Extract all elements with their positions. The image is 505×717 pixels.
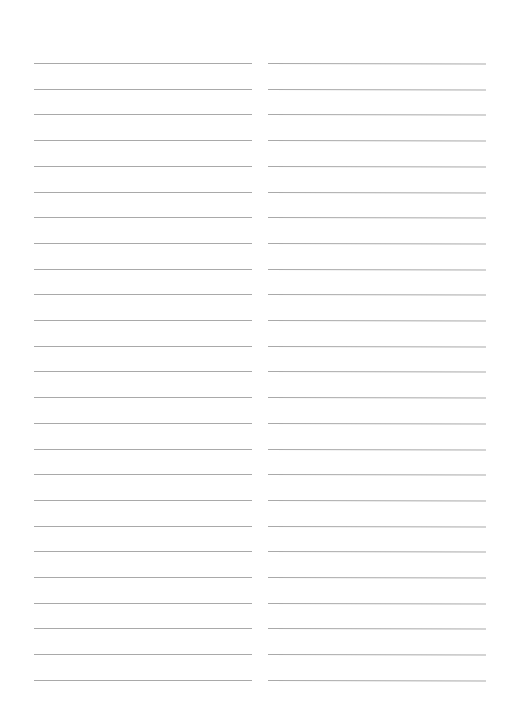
- ruled-line: [34, 294, 252, 295]
- ruled-line: [34, 320, 252, 321]
- ruled-line: [34, 474, 252, 475]
- ruled-line: [34, 423, 252, 424]
- ruled-line: [268, 89, 486, 90]
- ruled-line: [268, 269, 486, 270]
- ruled-line: [268, 449, 486, 450]
- ruled-line: [34, 577, 252, 578]
- ruled-line: [268, 243, 486, 244]
- ruled-line: [268, 217, 486, 218]
- ruled-line: [268, 192, 486, 193]
- ruled-line: [268, 551, 486, 552]
- ruled-line: [34, 346, 252, 347]
- ruled-line: [34, 551, 252, 552]
- ruled-line: [268, 628, 486, 629]
- ruled-line: [34, 269, 252, 270]
- ruled-line: [268, 346, 486, 347]
- ruled-line: [34, 371, 252, 372]
- ruled-line: [268, 140, 486, 141]
- ruled-line: [268, 526, 486, 527]
- ruled-line: [34, 500, 252, 501]
- ruled-line: [34, 654, 252, 655]
- ruled-line: [34, 397, 252, 398]
- ruled-line: [268, 654, 486, 655]
- ruled-line: [268, 320, 486, 321]
- ruled-line: [268, 114, 486, 115]
- ruled-line: [268, 603, 486, 604]
- ruled-line: [268, 371, 486, 372]
- ruled-line: [34, 89, 252, 90]
- ruled-line: [34, 192, 252, 193]
- ruled-line: [268, 294, 486, 295]
- ruled-line: [268, 474, 486, 475]
- ruled-line: [34, 526, 252, 527]
- ruled-line: [268, 397, 486, 398]
- ruled-line: [268, 500, 486, 501]
- ruled-line: [34, 166, 252, 167]
- ruled-line: [268, 166, 486, 167]
- ruled-line: [268, 63, 486, 64]
- ruled-line: [34, 628, 252, 629]
- ruled-line: [34, 140, 252, 141]
- ruled-line: [268, 423, 486, 424]
- ruled-line: [34, 603, 252, 604]
- ruled-line: [34, 63, 252, 64]
- ruled-line: [34, 217, 252, 218]
- ruled-line: [268, 577, 486, 578]
- ruled-line: [268, 680, 486, 681]
- ruled-line: [34, 114, 252, 115]
- ruled-line: [34, 449, 252, 450]
- ruled-line: [34, 243, 252, 244]
- ruled-line: [34, 680, 252, 681]
